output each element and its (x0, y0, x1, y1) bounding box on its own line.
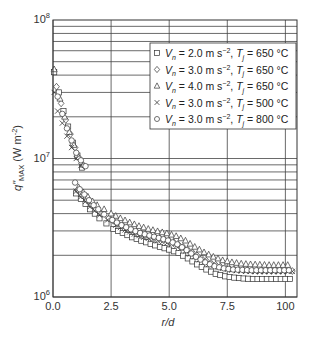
circle-marker-icon (60, 111, 65, 116)
circle-marker-icon (184, 247, 189, 252)
square-marker-icon (287, 276, 292, 281)
circle-marker-icon (69, 138, 74, 143)
circle-marker-icon (91, 202, 96, 207)
chart: 0.02.55.07.5100 106107108 r/d q"MAX (W m… (0, 0, 315, 344)
x-axis-label: r/d (162, 316, 176, 328)
circle-marker-icon (72, 180, 77, 185)
circle-marker-icon (154, 116, 159, 121)
circle-marker-icon (286, 268, 291, 273)
circle-marker-icon (74, 150, 79, 155)
x-tick-label: 7.5 (220, 300, 235, 312)
circle-marker-icon (55, 94, 60, 99)
circle-marker-icon (189, 251, 194, 256)
square-marker-icon (155, 51, 160, 56)
circle-marker-icon (83, 163, 88, 168)
circle-marker-icon (101, 212, 106, 217)
circle-marker-icon (78, 158, 83, 163)
x-tick-label: 5.0 (162, 300, 177, 312)
circle-marker-icon (82, 192, 87, 197)
x-tick-label: 2.5 (103, 300, 118, 312)
circle-marker-icon (77, 186, 82, 191)
x-tick-label: 0.0 (45, 300, 60, 312)
circle-marker-icon (86, 197, 91, 202)
circle-marker-icon (64, 126, 69, 131)
legend: Vn = 2.0 m s−2, Tj = 650 °CVn = 3.0 m s−… (150, 43, 296, 129)
x-tick-label: 100 (276, 300, 294, 312)
circle-marker-icon (96, 207, 101, 212)
